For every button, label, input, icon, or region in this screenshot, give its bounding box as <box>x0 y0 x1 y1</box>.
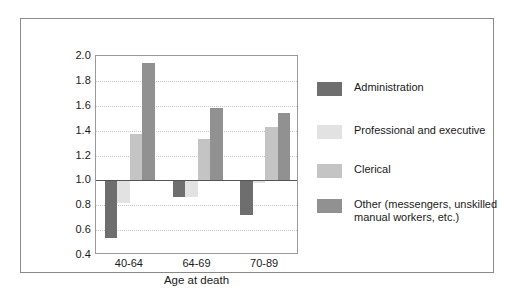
y-axis-tick-label: 1.2 <box>75 149 91 161</box>
legend-swatch <box>317 199 342 213</box>
y-axis-tick-label: 1.0 <box>75 173 91 185</box>
legend-item: Administration <box>317 81 424 96</box>
y-axis-tick-label: 0.4 <box>75 248 91 260</box>
x-axis-tick-label: 70-89 <box>250 257 278 269</box>
figure-container: 2.01.81.61.41.21.00.80.60.4 40-6464-6970… <box>0 0 510 290</box>
bar <box>210 108 223 180</box>
y-axis-tick-label: 0.6 <box>75 223 91 235</box>
baseline-reference-line <box>96 180 297 181</box>
y-axis-tick-label: 2.0 <box>75 49 91 61</box>
bar <box>265 127 278 180</box>
legend-label: Other (messengers, unskilled manual work… <box>354 198 497 224</box>
legend-item: Other (messengers, unskilled manual work… <box>317 198 497 224</box>
bar <box>173 180 186 196</box>
x-axis-tick-label: 40-64 <box>115 257 143 269</box>
bar <box>142 63 155 180</box>
legend-item: Professional and executive <box>317 124 485 139</box>
bar <box>117 180 130 202</box>
legend-item: Clerical <box>317 163 391 178</box>
y-axis-tick-labels: 2.01.81.61.41.21.00.80.60.4 <box>57 55 91 254</box>
x-axis-tick-label: 64-69 <box>182 257 210 269</box>
bar <box>105 180 118 237</box>
bar <box>185 180 198 196</box>
bar <box>130 134 143 180</box>
bar <box>198 139 211 180</box>
legend-swatch <box>317 164 342 178</box>
legend-label: Professional and executive <box>354 124 485 137</box>
y-axis-tick-label: 0.8 <box>75 198 91 210</box>
bar <box>278 113 291 180</box>
plot-area <box>95 55 298 254</box>
bars-layer <box>96 56 297 253</box>
legend-label: Clerical <box>354 163 391 176</box>
legend-swatch <box>317 125 342 139</box>
bar <box>240 180 253 215</box>
x-axis-title: Age at death <box>95 274 298 286</box>
y-axis-tick-label: 1.8 <box>75 74 91 86</box>
legend-label: Administration <box>354 81 424 94</box>
y-axis-tick-label: 1.6 <box>75 99 91 111</box>
x-axis-tick-labels: 40-6464-6970-89 <box>95 257 298 273</box>
figure-frame: 2.01.81.61.41.21.00.80.60.4 40-6464-6970… <box>20 18 494 273</box>
y-axis-tick-label: 1.4 <box>75 124 91 136</box>
legend-swatch <box>317 82 342 96</box>
